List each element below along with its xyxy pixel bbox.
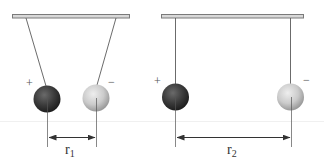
- positive-charge-label: +: [26, 76, 33, 90]
- distance-label-r2: r2: [227, 142, 237, 159]
- panel-close: + − r1: [13, 15, 130, 160]
- support-bar: [162, 15, 304, 19]
- support-bar: [13, 15, 130, 19]
- negative-charge-label: −: [303, 73, 310, 87]
- distance-label-r1: r1: [65, 142, 75, 159]
- negative-charge-label: −: [108, 75, 115, 89]
- negative-sphere: [277, 84, 304, 111]
- negative-sphere: [83, 85, 110, 112]
- panel-far: + − r2: [154, 15, 310, 160]
- positive-sphere: [34, 86, 61, 113]
- coulomb-diagram: + − r1 + − r2: [0, 0, 324, 164]
- positive-charge-label: +: [154, 74, 161, 88]
